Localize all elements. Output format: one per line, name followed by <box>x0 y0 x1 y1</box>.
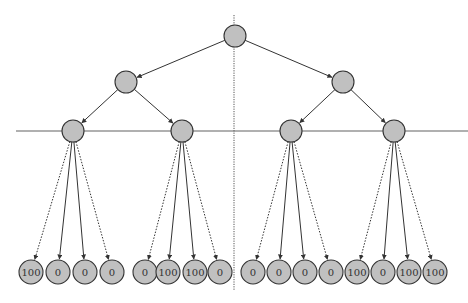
leaf-node: 0 <box>319 260 343 284</box>
leaf-node: 0 <box>208 260 232 284</box>
leaf-node: 0 <box>46 260 70 284</box>
leaf-value: 100 <box>185 267 204 278</box>
leaf-node: 0 <box>371 260 395 284</box>
leaf-node: 100 <box>397 260 421 284</box>
edge-to-leaf-4 <box>148 142 179 260</box>
leaf-value: 100 <box>347 267 366 278</box>
leaf-value: 100 <box>158 267 177 278</box>
leaf-value: 0 <box>109 267 115 278</box>
level2-node-3 <box>383 120 405 142</box>
leaf-value: 0 <box>250 267 256 278</box>
edge-to-leaf-1 <box>59 142 71 259</box>
edge-to-leaf-12 <box>360 142 391 260</box>
tree-svg: 1000000100100000001000100100 <box>0 0 468 303</box>
tree-leaves: 1000000100100000001000100100 <box>19 260 447 284</box>
leaf-node: 100 <box>19 260 43 284</box>
leaf-node: 100 <box>423 260 447 284</box>
leaf-node: 0 <box>133 260 157 284</box>
edge-to-leaf-7 <box>185 142 217 260</box>
edge-to-leaf-15 <box>397 142 431 260</box>
edge-to-leaf-11 <box>294 142 327 260</box>
leaf-node: 0 <box>241 260 265 284</box>
edge-to-leaf-5 <box>169 142 181 259</box>
leaf-node: 0 <box>73 260 97 284</box>
leaf-value: 100 <box>21 267 40 278</box>
edge-level1-to-level2-3 <box>351 90 385 123</box>
leaf-node: 100 <box>183 260 207 284</box>
edge-to-leaf-8 <box>256 142 288 260</box>
leaf-value: 0 <box>142 267 148 278</box>
tree-diagram: 1000000100100000001000100100 <box>0 0 468 303</box>
root-node <box>224 25 246 47</box>
edge-root-to-child-1 <box>245 40 332 77</box>
edge-root-to-child-0 <box>137 40 225 77</box>
leaf-node: 0 <box>100 260 124 284</box>
leaf-value: 100 <box>399 267 418 278</box>
edge-to-leaf-13 <box>384 142 393 259</box>
level1-node-1 <box>332 71 354 93</box>
leaf-value: 0 <box>302 267 308 278</box>
leaf-value: 100 <box>425 267 444 278</box>
tree-edges <box>35 40 432 259</box>
level1-node-0 <box>115 71 137 93</box>
edge-to-leaf-3 <box>76 142 109 260</box>
leaf-value: 0 <box>276 267 282 278</box>
edge-to-leaf-14 <box>395 142 407 259</box>
leaf-node: 100 <box>345 260 369 284</box>
level2-node-0 <box>62 120 84 142</box>
leaf-value: 0 <box>217 267 223 278</box>
tree-nodes <box>62 25 405 142</box>
leaf-value: 0 <box>328 267 334 278</box>
edge-level1-to-level2-1 <box>134 89 173 123</box>
edge-level1-to-level2-2 <box>300 90 335 123</box>
edge-to-leaf-2 <box>74 142 84 259</box>
leaf-node: 0 <box>293 260 317 284</box>
leaf-node: 100 <box>156 260 180 284</box>
level2-node-2 <box>280 120 302 142</box>
edge-to-leaf-6 <box>183 142 194 259</box>
leaf-value: 0 <box>55 267 61 278</box>
leaf-node: 0 <box>267 260 291 284</box>
edge-to-leaf-10 <box>292 142 304 259</box>
level2-node-1 <box>171 120 193 142</box>
edge-level1-to-level2-0 <box>82 89 118 122</box>
leaf-value: 0 <box>380 267 386 278</box>
edge-to-leaf-9 <box>280 142 290 259</box>
leaf-value: 0 <box>82 267 88 278</box>
edge-to-leaf-0 <box>35 142 70 260</box>
